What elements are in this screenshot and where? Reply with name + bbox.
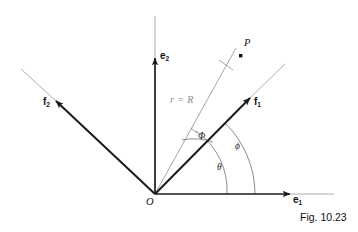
e2-axis-label-text: e bbox=[160, 50, 166, 61]
vector-diagram bbox=[0, 0, 358, 232]
angle-phi-label: ϕ bbox=[235, 142, 240, 152]
angle-theta-label: θ bbox=[217, 163, 222, 173]
f2-vector-label: f2 bbox=[43, 97, 50, 107]
angle-Phi-label: Φ bbox=[198, 132, 205, 142]
angle-Phi-leader bbox=[191, 128, 197, 133]
e2-axis-label: e2 bbox=[160, 51, 169, 61]
angle-arc-phi bbox=[225, 123, 255, 194]
e1-axis-label-subscript: 1 bbox=[299, 199, 303, 206]
r-equals-R-ray bbox=[155, 48, 236, 194]
e1-axis-label: e1 bbox=[293, 195, 302, 205]
f1-vector-extension bbox=[250, 64, 285, 98]
r-equals-R-tick bbox=[219, 60, 233, 70]
point-P-label: P bbox=[244, 38, 250, 49]
point-P-marker bbox=[239, 54, 242, 57]
figure-caption: Fig. 10.23 bbox=[300, 212, 347, 223]
f2-vector-extension bbox=[21, 69, 56, 101]
r-equals-R-label: r = R bbox=[170, 95, 194, 105]
e2-axis-label-subscript: 2 bbox=[166, 55, 170, 62]
f1-vector-label-subscript: 1 bbox=[257, 101, 261, 108]
e1-axis-label-text: e bbox=[293, 194, 299, 205]
f1-vector-label: f1 bbox=[254, 97, 261, 107]
figure-container: e2 e1 f1 f2 r = R P O Φ ϕ θ Fig. 10.23 bbox=[0, 0, 358, 232]
origin-O-label: O bbox=[146, 197, 154, 208]
f2-vector-label-subscript: 2 bbox=[46, 101, 50, 108]
f2-vector bbox=[56, 101, 155, 194]
